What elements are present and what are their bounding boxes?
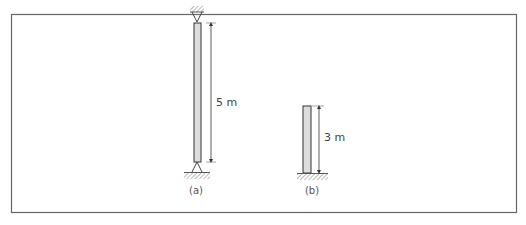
- column-a-member: [194, 23, 201, 162]
- ground-hatch: [184, 173, 210, 179]
- column-b: 3 m (b): [297, 106, 345, 196]
- column-a: 5 m (a): [184, 6, 237, 196]
- length-label-b: 3 m: [324, 131, 345, 144]
- caption-b: (b): [305, 185, 319, 196]
- caption-a: (a): [189, 185, 203, 196]
- top-pin-icon: [192, 12, 202, 22]
- length-label-a: 5 m: [216, 96, 237, 109]
- fixed-support-hatch: [297, 174, 328, 180]
- top-support-hatch: [190, 6, 204, 12]
- diagram-canvas: 5 m (a) 3 m (b): [0, 0, 526, 225]
- bottom-pin-icon: [192, 162, 202, 172]
- figure-frame: [12, 15, 517, 213]
- column-b-member: [303, 106, 311, 173]
